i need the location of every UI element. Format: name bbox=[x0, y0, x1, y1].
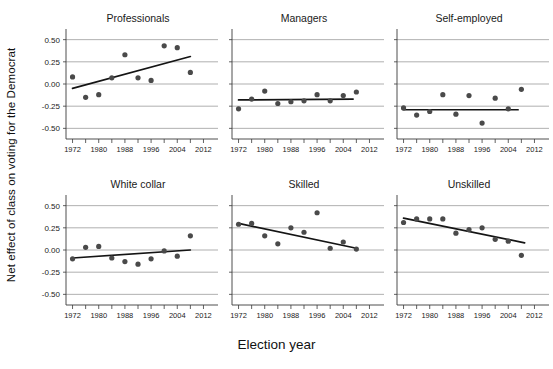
data-point bbox=[427, 216, 432, 221]
x-tick-label: 1988 bbox=[283, 311, 300, 320]
panel-title: Self-employed bbox=[397, 12, 541, 24]
data-point bbox=[162, 43, 167, 48]
x-tick-label: 1980 bbox=[256, 311, 273, 320]
data-point bbox=[249, 96, 254, 101]
data-point bbox=[519, 253, 524, 258]
data-point bbox=[175, 45, 180, 50]
data-point bbox=[188, 70, 193, 75]
data-point bbox=[314, 92, 319, 97]
data-point bbox=[135, 75, 140, 80]
panel-title: Managers bbox=[232, 12, 376, 24]
data-point bbox=[262, 88, 267, 93]
x-tick-label: 1972 bbox=[230, 145, 247, 154]
x-axis-label: Election year bbox=[0, 337, 553, 352]
data-point bbox=[328, 98, 333, 103]
data-point bbox=[341, 239, 346, 244]
data-point bbox=[148, 78, 153, 83]
figure-panel-grid: Net effect of class on voting for the De… bbox=[0, 0, 553, 369]
x-tick-label: 2004 bbox=[500, 311, 517, 320]
data-point bbox=[301, 230, 306, 235]
panel-title: Professionals bbox=[66, 12, 210, 24]
x-tick-label: 2004 bbox=[500, 145, 517, 154]
regression-line bbox=[73, 57, 191, 89]
data-point bbox=[109, 75, 114, 80]
x-tick-label: 2004 bbox=[335, 311, 352, 320]
x-tick-label: 1996 bbox=[309, 311, 326, 320]
data-point bbox=[427, 109, 432, 114]
data-point bbox=[70, 256, 75, 261]
data-point bbox=[328, 246, 333, 251]
y-tick-label: 0.00 bbox=[44, 246, 60, 255]
x-tick-label: 1988 bbox=[283, 145, 300, 154]
x-tick-label: 1980 bbox=[90, 311, 107, 320]
x-tick-label: 1996 bbox=[474, 145, 491, 154]
data-point bbox=[275, 101, 280, 106]
y-tick-label: -0.25 bbox=[42, 102, 61, 111]
regression-line bbox=[239, 99, 354, 100]
data-point bbox=[341, 93, 346, 98]
data-point bbox=[493, 96, 498, 101]
y-tick-label: 0.50 bbox=[44, 202, 60, 211]
x-tick-label: 1980 bbox=[90, 145, 107, 154]
data-point bbox=[354, 247, 359, 252]
x-tick-label: 1972 bbox=[230, 311, 247, 320]
data-point bbox=[479, 120, 484, 125]
data-point bbox=[148, 256, 153, 261]
data-point bbox=[493, 237, 498, 242]
data-point bbox=[83, 245, 88, 250]
data-point bbox=[466, 93, 471, 98]
x-tick-label: 1996 bbox=[309, 145, 326, 154]
data-point bbox=[479, 225, 484, 230]
regression-line bbox=[404, 218, 525, 243]
data-point bbox=[288, 225, 293, 230]
x-tick-label: 1996 bbox=[143, 311, 160, 320]
x-tick-label: 2012 bbox=[526, 145, 543, 154]
data-point bbox=[275, 241, 280, 246]
y-tick-label: -0.50 bbox=[42, 290, 61, 299]
x-tick-label: 1996 bbox=[143, 145, 160, 154]
data-point bbox=[453, 231, 458, 236]
data-point bbox=[135, 262, 140, 267]
regression-line bbox=[239, 223, 357, 248]
y-axis-label: Net effect of class on voting for the De… bbox=[5, 48, 17, 283]
data-point bbox=[354, 89, 359, 94]
panel-plot: 197219801988199620042012 bbox=[232, 191, 384, 323]
panel-plot: 0.500.250.00-0.25-0.50197219801988199620… bbox=[40, 191, 218, 323]
x-tick-label: 2012 bbox=[361, 145, 378, 154]
x-tick-label: 1980 bbox=[421, 311, 438, 320]
panel-title: Skilled bbox=[232, 178, 376, 190]
data-point bbox=[122, 52, 127, 57]
data-point bbox=[440, 92, 445, 97]
data-point bbox=[401, 220, 406, 225]
data-point bbox=[506, 239, 511, 244]
data-point bbox=[414, 216, 419, 221]
data-point bbox=[519, 87, 524, 92]
y-tick-label: 0.25 bbox=[44, 58, 60, 67]
x-tick-label: 1980 bbox=[256, 145, 273, 154]
data-point bbox=[314, 210, 319, 215]
x-tick-label: 2004 bbox=[169, 311, 186, 320]
x-tick-label: 1972 bbox=[395, 145, 412, 154]
x-tick-label: 1980 bbox=[421, 145, 438, 154]
data-point bbox=[175, 254, 180, 259]
data-point bbox=[506, 106, 511, 111]
y-tick-label: 0.25 bbox=[44, 224, 60, 233]
x-tick-label: 2012 bbox=[526, 311, 543, 320]
x-tick-label: 2012 bbox=[195, 311, 212, 320]
panel-plot: 197219801988199620042012 bbox=[232, 25, 384, 157]
data-point bbox=[236, 106, 241, 111]
data-point bbox=[288, 99, 293, 104]
data-point bbox=[109, 255, 114, 260]
panel-plot: 197219801988199620042012 bbox=[397, 25, 549, 157]
data-point bbox=[301, 98, 306, 103]
x-tick-label: 1988 bbox=[117, 145, 134, 154]
x-tick-label: 1972 bbox=[64, 311, 81, 320]
data-point bbox=[122, 259, 127, 264]
panel-plot: 0.500.250.00-0.25-0.50197219801988199620… bbox=[40, 25, 218, 157]
x-tick-label: 2012 bbox=[361, 311, 378, 320]
y-tick-label: 0.00 bbox=[44, 80, 60, 89]
data-point bbox=[466, 227, 471, 232]
data-point bbox=[440, 216, 445, 221]
regression-line bbox=[73, 250, 191, 258]
data-point bbox=[96, 92, 101, 97]
